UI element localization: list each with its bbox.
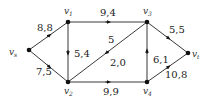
node-v4 bbox=[145, 80, 150, 85]
edge-label: 9,4 bbox=[100, 7, 116, 18]
labels-group: 8,87,55,49,452,09,96,15,510,8vsv1v2v3v4v… bbox=[9, 6, 200, 97]
edge-label: 10,8 bbox=[165, 69, 187, 80]
arrow-icon bbox=[106, 51, 109, 53]
node-label: vs bbox=[9, 47, 17, 58]
edge-label: 5,4 bbox=[74, 48, 90, 59]
arrow-icon bbox=[166, 36, 169, 38]
edge-label: 5,5 bbox=[169, 24, 185, 35]
node-label: v1 bbox=[64, 6, 73, 17]
flow-network-diagram: 8,87,55,49,452,09,96,15,510,8vsv1v2v3v4v… bbox=[0, 0, 212, 103]
node-v2 bbox=[66, 80, 71, 85]
edge-label: 9,9 bbox=[103, 86, 119, 97]
node-vs bbox=[27, 48, 32, 53]
edge-label: 6,1 bbox=[153, 54, 169, 65]
edge-label: 5 bbox=[108, 34, 114, 45]
node-label: vt bbox=[192, 49, 200, 60]
edge-label: 7,5 bbox=[36, 66, 52, 77]
arrow-icon bbox=[47, 35, 50, 37]
edge-label: 8,8 bbox=[37, 22, 53, 33]
node-v3 bbox=[145, 20, 150, 25]
node-v1 bbox=[66, 20, 71, 25]
node-label: v3 bbox=[143, 6, 152, 17]
edge-label: 2,0 bbox=[110, 57, 126, 68]
node-label: v4 bbox=[143, 86, 152, 97]
node-label: v2 bbox=[64, 86, 73, 97]
node-vt bbox=[186, 51, 191, 56]
